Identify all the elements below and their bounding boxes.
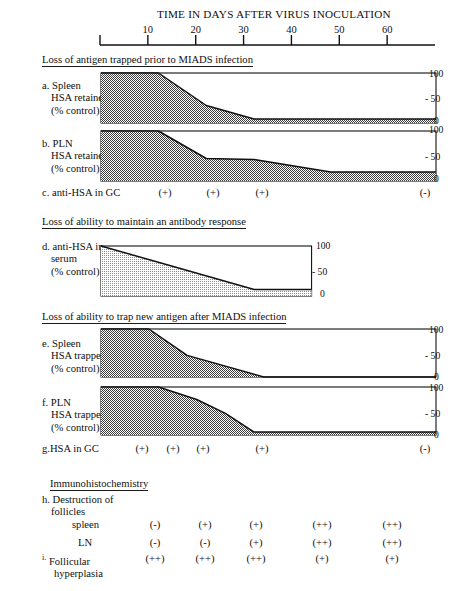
score-cell-i: (+) bbox=[306, 553, 338, 564]
y-top-a: 100 bbox=[429, 68, 443, 79]
row-c-line1: anti-HSA in GC bbox=[52, 187, 120, 198]
section-heading-1: Loss of antigen trapped prior to MIADS i… bbox=[42, 54, 253, 67]
row-sublabel-h-ln: LN bbox=[78, 537, 92, 549]
series-area-a bbox=[101, 73, 436, 123]
row-label-i: i. Follicular hyperplasia bbox=[42, 552, 103, 580]
row-i-line1: Follicular bbox=[49, 556, 90, 567]
row-h-key: h. bbox=[42, 494, 50, 505]
chart-area-b bbox=[100, 130, 437, 182]
score-cell-h-spleen: (+) bbox=[240, 519, 272, 530]
y-top-d: 100 bbox=[316, 240, 330, 251]
row-g-line1: HSA in GC bbox=[50, 443, 99, 454]
row-h-line1: Destruction of bbox=[53, 494, 114, 505]
row-b-line2: HSA retained bbox=[42, 150, 108, 162]
row-label-h: h. Destruction of follicles bbox=[42, 494, 114, 519]
row-f-line1: PLN bbox=[51, 397, 71, 408]
chart-panel-f bbox=[100, 386, 437, 436]
series-area-d bbox=[101, 246, 312, 296]
row-b-key: b. bbox=[42, 138, 50, 149]
row-i-line2: hyperplasia bbox=[42, 568, 103, 580]
axis-tick-label: 60 bbox=[382, 24, 393, 35]
row-a-key: a. bbox=[42, 80, 49, 91]
chart-area-f bbox=[100, 386, 437, 436]
row-e-line3: (% control) bbox=[42, 363, 100, 375]
chart-area-e bbox=[100, 328, 437, 378]
y-mid-d: - 50 bbox=[312, 266, 327, 277]
y-bot-d: 0 bbox=[320, 288, 325, 299]
row-label-g: g.HSA in GC bbox=[42, 443, 99, 455]
score-marker: (+) bbox=[161, 443, 185, 454]
chart-panel-a bbox=[100, 72, 437, 124]
section-heading-2: Loss of ability to maintain an antibody … bbox=[42, 216, 246, 229]
row-label-d: d. anti-HSA in serum (% control) bbox=[42, 241, 104, 278]
score-marker: (+) bbox=[250, 187, 274, 198]
chart-panel-b bbox=[100, 130, 437, 182]
axis-tick-label: 10 bbox=[143, 24, 154, 35]
row-e-line2: HSA trapped bbox=[42, 350, 106, 362]
row-d-line3: (% control) bbox=[42, 266, 100, 278]
score-cell-h-spleen: (++) bbox=[376, 519, 408, 530]
row-b-line1: PLN bbox=[53, 138, 73, 149]
row-sublabel-h-spleen: spleen bbox=[72, 519, 99, 531]
row-a-line1: Spleen bbox=[52, 80, 81, 91]
row-label-b: b. PLN HSA retained (% control) bbox=[42, 138, 108, 175]
chart-panel-e bbox=[100, 328, 437, 378]
row-e-key: e. bbox=[42, 338, 49, 349]
row-c-key: c. bbox=[42, 187, 49, 198]
row-label-e: e. Spleen HSA trapped (% control) bbox=[42, 338, 106, 375]
y-bot-f: 0 bbox=[434, 429, 439, 440]
score-cell-i: (++) bbox=[189, 553, 221, 564]
score-marker: (+) bbox=[153, 187, 177, 198]
series-area-f bbox=[101, 387, 436, 435]
figure-title: TIME IN DAYS AFTER VIRUS INOCULATION bbox=[157, 8, 391, 20]
axis-tick-label: 50 bbox=[334, 24, 345, 35]
score-cell-h-ln: (-) bbox=[139, 537, 171, 548]
row-i-key: i. bbox=[42, 553, 46, 562]
score-cell-i: (++) bbox=[139, 553, 171, 564]
row-d-key: d. bbox=[42, 241, 50, 252]
score-marker: (+) bbox=[201, 187, 225, 198]
score-marker: (+) bbox=[191, 443, 215, 454]
series-area-e bbox=[101, 329, 436, 377]
score-cell-h-ln: (++) bbox=[306, 537, 338, 548]
row-f-key: f. bbox=[42, 397, 48, 408]
y-mid-f: - 50 bbox=[425, 408, 440, 419]
score-cell-h-spleen: (-) bbox=[139, 519, 171, 530]
row-b-line3: (% control) bbox=[42, 163, 100, 175]
section-heading-4: Immunohistochemistry bbox=[50, 478, 148, 491]
row-f-line3: (% control) bbox=[42, 422, 100, 434]
y-mid-b: - 50 bbox=[425, 151, 440, 162]
score-cell-i: (+) bbox=[376, 553, 408, 564]
time-axis-svg: 102030405060 bbox=[0, 24, 463, 50]
score-marker: (-) bbox=[413, 443, 437, 454]
row-h-line2: follicles bbox=[42, 506, 85, 518]
axis-tick-label: 40 bbox=[286, 24, 297, 35]
y-bot-e: 0 bbox=[434, 371, 439, 382]
y-top-b: 100 bbox=[429, 124, 443, 135]
row-e-line1: Spleen bbox=[52, 338, 81, 349]
row-d-line2: serum bbox=[42, 253, 77, 265]
y-bot-b: 0 bbox=[434, 173, 439, 184]
row-d-line1: anti-HSA in bbox=[53, 241, 104, 252]
row-f-line2: HSA trapped bbox=[42, 409, 106, 421]
series-area-b bbox=[101, 131, 436, 181]
score-cell-h-spleen: (++) bbox=[306, 519, 338, 530]
score-cell-h-ln: (++) bbox=[376, 537, 408, 548]
y-mid-e: - 50 bbox=[425, 350, 440, 361]
y-mid-a: - 50 bbox=[425, 93, 440, 104]
score-cell-h-spleen: (+) bbox=[189, 519, 221, 530]
chart-panel-d bbox=[100, 245, 313, 297]
time-axis: 102030405060 bbox=[0, 24, 463, 50]
row-a-line2: HSA retained bbox=[42, 92, 108, 104]
row-a-line3: (% control) bbox=[42, 105, 100, 117]
score-marker: (+) bbox=[130, 443, 154, 454]
score-cell-h-ln: (+) bbox=[240, 537, 272, 548]
row-g-key: g. bbox=[42, 443, 50, 454]
score-marker: (-) bbox=[413, 187, 437, 198]
row-label-a: a. Spleen HSA retained (% control) bbox=[42, 80, 108, 117]
axis-tick-label: 30 bbox=[238, 24, 249, 35]
y-top-f: 100 bbox=[429, 382, 443, 393]
score-cell-i: (++) bbox=[240, 553, 272, 564]
y-top-e: 100 bbox=[429, 324, 443, 335]
section-heading-3: Loss of ability to trap new antigen afte… bbox=[42, 311, 286, 324]
